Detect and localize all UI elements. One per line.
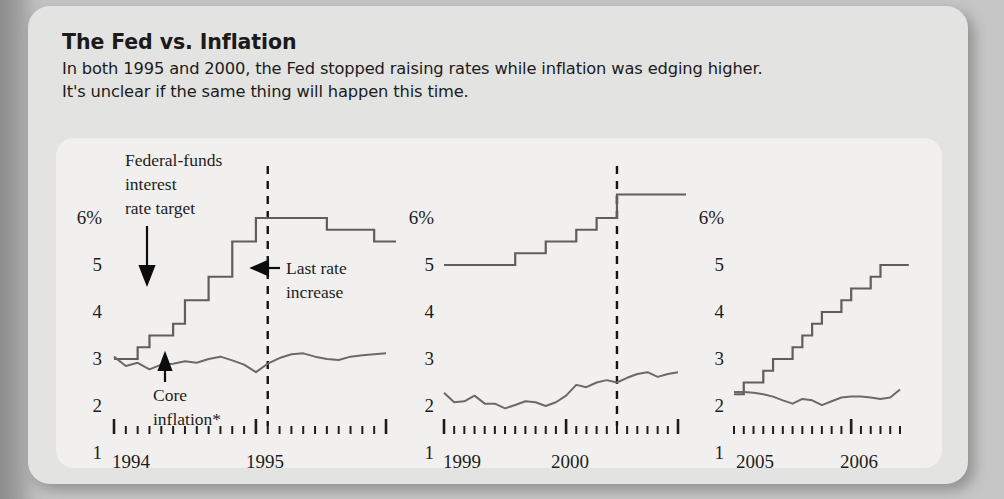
y-tick-1: 1 [93,442,103,463]
y-tick-5: 5 [715,254,725,275]
x-tick-label-1999: 1999 [443,451,481,468]
panel-3-plot [734,265,909,434]
core-inflation-pointer-arrow-icon [159,354,171,382]
y-tick-2: 2 [715,395,725,416]
y-tick-4: 4 [93,301,103,322]
y-tick-3: 3 [93,348,103,369]
x-tick-label-1995: 1995 [246,451,284,468]
y-tick-2: 2 [93,395,103,416]
y-tick-1: 1 [715,442,725,463]
chart-panel-1994-1995: 6% 5 4 3 2 1 1994 1995 Federal-funds [56,138,396,468]
panel-3-y-axis: 6% 5 4 3 2 1 [699,207,725,463]
y-tick-6: 6% [409,207,435,228]
core-inflation-label-line2: inflation* [153,409,221,429]
page-background: The Fed vs. Inflation In both 1995 and 2… [0,0,1004,499]
y-tick-2: 2 [425,395,435,416]
deck-line-1: In both 1995 and 2000, the Fed stopped r… [62,57,922,80]
x-tick-label-2000: 2000 [551,451,589,468]
panel-2-svg: 6% 5 4 3 2 1 1999 2000 [396,138,686,468]
y-tick-6: 6% [699,207,725,228]
core-inflation-label-line1: Core [153,385,187,405]
y-tick-5: 5 [93,254,103,275]
last-rate-label-line2: increase [286,282,344,302]
panel-1-y-axis: 6% 5 4 3 2 1 [77,207,103,463]
y-tick-6: 6% [77,207,103,228]
fed-funds-label-line1: Federal-funds [125,150,222,170]
chart-panel-container: 6% 5 4 3 2 1 1994 1995 Federal-funds [56,138,942,468]
article-card: The Fed vs. Inflation In both 1995 and 2… [28,6,968,484]
last-rate-label-line1: Last rate [286,258,347,278]
panel-2-y-axis: 6% 5 4 3 2 1 [409,207,435,463]
page-title: The Fed vs. Inflation [62,30,922,54]
y-tick-5: 5 [425,254,435,275]
panel-2-x-axis: 1999 2000 [443,451,589,468]
panel-3-svg: 6% 5 4 3 2 1 2005 2006 [686,138,942,468]
y-tick-3: 3 [715,348,725,369]
x-tick-label-2005: 2005 [736,451,774,468]
headline-block: The Fed vs. Inflation In both 1995 and 2… [62,30,922,103]
panel-1-annotations: Federal-funds interest rate target Core … [125,150,347,429]
y-tick-4: 4 [715,301,725,322]
chart-panel-2005-2006: 6% 5 4 3 2 1 2005 2006 [686,138,942,468]
fed-funds-pointer-arrow-icon [140,226,154,284]
chart-panel-1999-2000: 6% 5 4 3 2 1 1999 2000 [396,138,686,468]
fed-funds-label-line2: interest [125,174,177,194]
x-tick-label-1994: 1994 [112,451,151,468]
fed-funds-label-line3: rate target [125,198,195,218]
last-rate-pointer-arrow-icon [252,261,280,275]
y-tick-3: 3 [425,348,435,369]
panel-2-plot [444,166,686,434]
x-tick-label-2006: 2006 [840,451,878,468]
panel-3-x-axis: 2005 2006 [736,451,878,468]
y-tick-4: 4 [425,301,435,322]
y-tick-1: 1 [425,442,435,463]
deck-line-2: It's unclear if the same thing will happ… [62,80,922,103]
panel-1-svg: 6% 5 4 3 2 1 1994 1995 Federal-funds [56,138,396,468]
panel-1-x-axis: 1994 1995 [112,451,284,468]
